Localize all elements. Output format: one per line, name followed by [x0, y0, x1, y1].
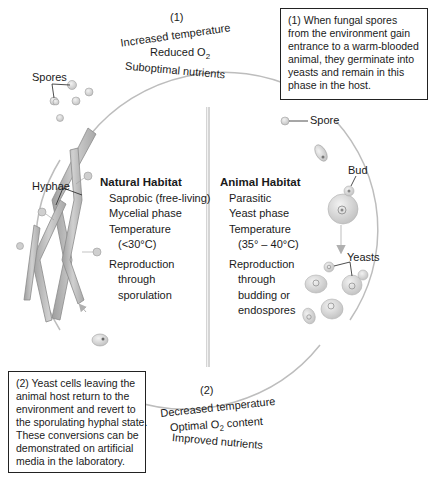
- animal-habitat-title: Animal Habitat: [220, 176, 301, 188]
- spores-graphic: [50, 81, 93, 122]
- yeasts-leader: [334, 262, 352, 276]
- explanation-box-1: (1) When fungal spores from the environm…: [280, 8, 428, 100]
- animal-habitat-panel: Animal Habitat Parasitic Yeast phase Tem…: [220, 175, 301, 319]
- natural-habitat-title: Natural Habitat: [100, 176, 182, 188]
- returning-yeast-graphic: [80, 305, 108, 346]
- budding-yeast-graphic: [328, 176, 358, 224]
- spore-graphic: [281, 117, 308, 125]
- label-spore: Spore: [310, 114, 339, 126]
- germinating-spore-graphic: [312, 143, 330, 164]
- natural-habitat-panel: Natural Habitat Saprobic (free-living) M…: [100, 175, 210, 303]
- transition-1-number: (1): [170, 10, 183, 24]
- hyphae-graphic: [24, 128, 96, 322]
- label-yeasts: Yeasts: [347, 251, 380, 263]
- label-hyphae: Hyphae: [32, 180, 70, 192]
- transition-2-number: (2): [200, 383, 213, 397]
- label-spores: Spores: [32, 71, 67, 83]
- label-bud: Bud: [348, 164, 368, 176]
- explanation-box-2: (2) Yeast cells leaving the animal host …: [8, 371, 146, 473]
- spores-leader: [52, 84, 70, 98]
